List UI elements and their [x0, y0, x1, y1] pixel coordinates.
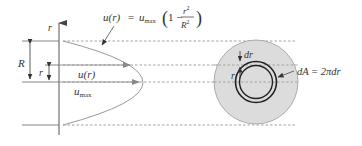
- reference-lines: [22, 41, 59, 125]
- profile-equation: u(r) = umax ( 1 − r2 R2 ): [102, 5, 202, 45]
- u-max-label: umax: [74, 85, 92, 99]
- eq-equals: =: [128, 11, 134, 23]
- dr-label: dr: [244, 49, 253, 60]
- small-radius-label: r: [39, 67, 43, 78]
- velocity-profile-curve: [63, 41, 143, 125]
- r-axis-label: r: [48, 22, 52, 33]
- u-max-subscript: max: [80, 91, 93, 99]
- area-equation: dA = 2πdr: [297, 66, 342, 77]
- eq-denominator: R2: [180, 19, 190, 30]
- disk-r-label: r: [231, 70, 235, 81]
- eq-leader-line: [102, 26, 114, 45]
- eq-lhs: u(r): [103, 11, 120, 24]
- big-radius-label: R: [17, 57, 25, 69]
- eq-numerator: r2: [183, 5, 190, 16]
- pipe-flow-diagram: r R r u(r) umax u(r) = umax ( 1 − r2 R2 …: [0, 0, 362, 146]
- u-r-label: u(r): [78, 68, 95, 81]
- eq-umax: umax: [139, 11, 156, 24]
- eq-close-paren: ): [196, 8, 202, 29]
